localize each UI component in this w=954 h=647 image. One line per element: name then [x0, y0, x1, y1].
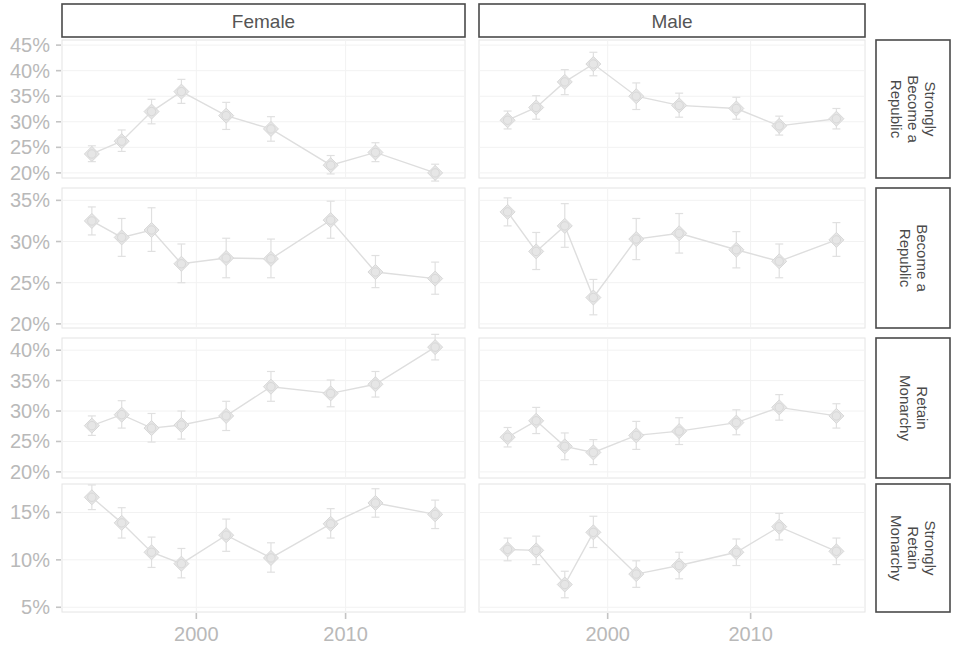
y-tick-label: 25% — [10, 272, 50, 294]
x-tick-label: 2010 — [728, 623, 773, 645]
facet-strip-label-row_1: Strongly — [922, 81, 939, 137]
data-point-center — [371, 380, 379, 388]
data-point-center — [589, 60, 597, 68]
data-point-center — [88, 493, 96, 501]
data-point-center — [632, 570, 640, 578]
panel-background — [62, 484, 465, 612]
facet-strip-label-male: Male — [651, 11, 692, 32]
data-point-center — [267, 382, 275, 390]
data-point-center — [832, 547, 840, 555]
y-tick-label: 10% — [10, 549, 50, 571]
data-point-center — [431, 510, 439, 518]
y-tick-label: 30% — [10, 111, 50, 133]
facet-strip-label-group-row_1: StronglyBecome aRepublic — [888, 75, 939, 143]
data-point-center — [371, 268, 379, 276]
data-point-center — [118, 233, 126, 241]
data-point-center — [118, 137, 126, 145]
data-point-center — [222, 412, 230, 420]
panel-background — [479, 338, 865, 478]
y-tick-label: 15% — [10, 501, 50, 523]
data-point-center — [431, 274, 439, 282]
y-tick-label: 35% — [10, 370, 50, 392]
data-point-center — [532, 417, 540, 425]
data-point-center — [222, 111, 230, 119]
panel-1-male — [479, 40, 865, 178]
y-tick-label: 40% — [10, 339, 50, 361]
data-point-center — [561, 78, 569, 86]
y-tick-label: 25% — [10, 136, 50, 158]
data-point-center — [503, 116, 511, 124]
data-point-center — [775, 122, 783, 130]
data-point-center — [732, 104, 740, 112]
data-point-center — [775, 522, 783, 530]
facet-strip-label-row_3: Monarchy — [897, 375, 914, 441]
data-point-center — [431, 343, 439, 351]
data-point-center — [589, 293, 597, 301]
facet-strip-label-row_4: Retain — [905, 526, 922, 569]
panel-2-female — [62, 188, 465, 328]
y-tick-label: 35% — [10, 85, 50, 107]
y-tick-label: 20% — [10, 313, 50, 335]
data-point-center — [147, 107, 155, 115]
data-point-center — [732, 548, 740, 556]
data-point-center — [222, 531, 230, 539]
y-tick-label: 40% — [10, 60, 50, 82]
y-tick-label: 30% — [10, 231, 50, 253]
chart-figure: FemaleMaleStronglyBecome aRepublicBecome… — [0, 0, 954, 647]
data-point-center — [267, 554, 275, 562]
panel-3-male — [479, 338, 865, 478]
data-point-center — [147, 424, 155, 432]
data-point-center — [177, 421, 185, 429]
data-point-center — [732, 418, 740, 426]
y-tick-label: 20% — [10, 461, 50, 483]
panel-background — [62, 40, 465, 178]
data-point-center — [632, 235, 640, 243]
facet-strip-label-row_2: Become a — [914, 224, 931, 292]
x-tick-label: 2000 — [585, 623, 630, 645]
data-point-center — [561, 222, 569, 230]
facet-strip-label-group-row_2: Become aRepublic — [897, 224, 931, 292]
data-point-center — [675, 101, 683, 109]
y-tick-label: 20% — [10, 162, 50, 184]
data-point-center — [88, 150, 96, 158]
panel-1-female — [62, 40, 465, 181]
data-point-center — [326, 389, 334, 397]
data-point-center — [147, 226, 155, 234]
data-point-center — [632, 431, 640, 439]
data-point-center — [326, 216, 334, 224]
panels-layer — [62, 40, 865, 612]
data-point-center — [267, 255, 275, 263]
data-point-center — [832, 236, 840, 244]
facet-strip-label-female: Female — [232, 11, 295, 32]
data-point-center — [632, 92, 640, 100]
data-point-center — [147, 548, 155, 556]
panel-2-male — [479, 188, 865, 328]
data-point-center — [371, 499, 379, 507]
panel-4-female — [62, 484, 465, 612]
facet-strip-label-row_2: Republic — [897, 229, 914, 288]
data-point-center — [267, 125, 275, 133]
data-point-center — [503, 545, 511, 553]
data-point-center — [326, 520, 334, 528]
data-point-center — [532, 103, 540, 111]
y-tick-label: 30% — [10, 400, 50, 422]
data-point-center — [222, 254, 230, 262]
data-point-center — [326, 161, 334, 169]
data-point-center — [675, 229, 683, 237]
data-point-center — [431, 169, 439, 177]
y-tick-label: 5% — [21, 596, 50, 618]
facet-strip-label-row_1: Republic — [888, 80, 905, 139]
data-point-center — [675, 561, 683, 569]
data-point-center — [88, 217, 96, 225]
data-point-center — [88, 421, 96, 429]
facet-strip-label-row_1: Become a — [905, 75, 922, 143]
x-tick-label: 2000 — [174, 623, 219, 645]
data-point-center — [371, 148, 379, 156]
data-point-center — [589, 448, 597, 456]
data-point-center — [832, 115, 840, 123]
facet-strip-label-row_4: Strongly — [922, 520, 939, 576]
data-point-center — [732, 246, 740, 254]
data-point-center — [118, 519, 126, 527]
panel-3-female — [62, 334, 465, 478]
data-point-center — [775, 403, 783, 411]
